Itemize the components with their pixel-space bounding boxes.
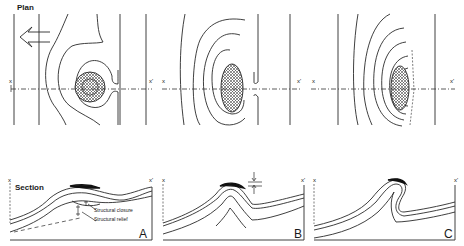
section-axis-start-a: x [8,177,11,183]
panel-a-section: x x' Section Structural closure Structur… [8,177,153,241]
axis-start-label-c: x [312,78,315,84]
section-axis-end-b: x' [301,177,305,183]
section-label: Section [15,183,44,192]
structural-closure-label: Structural closure [94,207,133,213]
left-arrow-icon [20,27,50,47]
panel-a-plan: Plan x x' [9,3,153,125]
axis-start-label-b: x [162,78,165,84]
panel-letter-c: C [444,227,453,241]
axis-end-label-a: x' [149,78,153,84]
section-axis-end-c: x' [454,177,458,183]
panel-letter-a: A [139,227,147,241]
panel-b-section: x x' B [162,172,305,241]
panel-b-plan: x x' [162,14,301,125]
axis-start-label-a: x [9,78,12,84]
structural-closure-diagram: Plan x x' x x' [0,0,464,246]
axis-end-label-c: x' [450,78,454,84]
panel-c-plan: x x' [311,14,455,126]
panel-c-section: x x' C [313,177,458,241]
plan-label: Plan [17,3,34,12]
structural-relief-label: Structural relief [94,216,128,222]
axis-end-label-b: x' [297,78,301,84]
section-axis-end-a: x' [149,177,153,183]
panel-letter-b: B [294,227,302,241]
section-axis-start-b: x [162,177,165,183]
section-axis-start-c: x [313,177,316,183]
